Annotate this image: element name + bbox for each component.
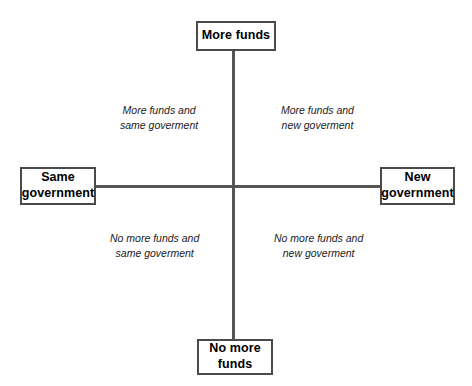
quadrant-label-top-left-line1: More funds and [123,104,196,116]
pole-label-same-government-line2: government [22,186,95,200]
horizontal-axis-line [95,185,381,188]
pole-box-no-more-funds: No more funds [197,339,273,375]
pole-label-no-more-funds: No more funds [209,341,260,372]
quadrant-label-bottom-left-line2: same goverment [116,247,194,259]
pole-box-new-government: New government [380,167,455,205]
pole-label-more-funds: More funds [202,28,270,44]
quadrant-label-bottom-right: No more funds and new goverment [274,231,363,261]
pole-label-new-government-line1: New [405,170,431,184]
quadrant-label-bottom-right-line1: No more funds and [274,232,363,244]
quadrant-label-top-left: More funds and same goverment [120,103,198,133]
quadrant-label-bottom-left: No more funds and same goverment [110,231,199,261]
vertical-axis-line [232,50,235,339]
quadrant-label-top-right-line2: new goverment [282,119,354,131]
pole-label-new-government-line2: government [381,186,454,200]
quadrant-label-bottom-right-line2: new goverment [283,247,355,259]
quadrant-label-top-right: More funds and new goverment [281,103,354,133]
quadrant-diagram-canvas: More funds Same government New governmen… [0,0,472,386]
pole-label-no-more-funds-line1: No more [209,341,260,355]
quadrant-label-top-right-line1: More funds and [281,104,354,116]
pole-box-more-funds: More funds [196,21,276,51]
pole-label-same-government-line1: Same [41,170,75,184]
quadrant-label-bottom-left-line1: No more funds and [110,232,199,244]
pole-label-same-government: Same government [22,170,95,201]
quadrant-label-top-left-line2: same goverment [120,119,198,131]
pole-label-no-more-funds-line2: funds [218,357,253,371]
pole-box-same-government: Same government [20,167,96,205]
pole-label-new-government: New government [381,170,454,201]
